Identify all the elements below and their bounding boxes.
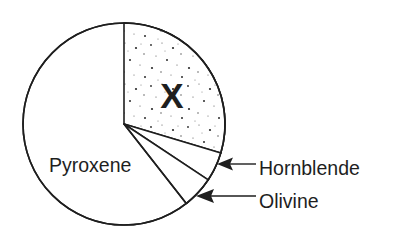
pie-chart: X Pyroxene Hornblende Olivine bbox=[0, 0, 402, 246]
label-hornblende: Hornblende bbox=[259, 157, 360, 179]
pie bbox=[23, 23, 225, 225]
hornblende-arrow bbox=[217, 158, 256, 171]
label-x: X bbox=[160, 76, 184, 115]
olivine-arrow bbox=[196, 189, 256, 203]
label-olivine: Olivine bbox=[259, 190, 319, 212]
label-pyroxene: Pyroxene bbox=[49, 154, 131, 176]
